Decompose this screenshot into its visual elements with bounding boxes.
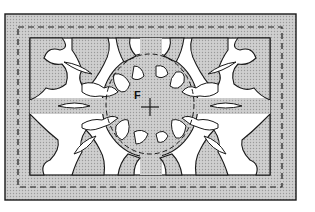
- panel-drawing: [0, 0, 315, 212]
- center-label: F: [134, 89, 141, 101]
- carved-panel-diagram: F: [0, 0, 315, 212]
